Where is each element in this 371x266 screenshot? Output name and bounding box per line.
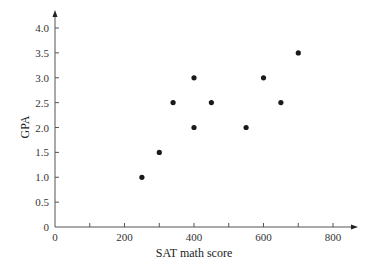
data-point xyxy=(171,100,176,105)
scatter-chart: 00.51.01.52.02.53.03.54.0 0200400600800 … xyxy=(0,0,371,266)
data-point xyxy=(191,75,196,80)
y-tick-label: 1.5 xyxy=(35,146,49,158)
data-points xyxy=(139,50,301,180)
x-tick-label: 600 xyxy=(255,231,272,243)
y-tick-label: 3.0 xyxy=(35,72,49,84)
data-point xyxy=(261,75,266,80)
x-axis-arrow-icon xyxy=(351,225,358,230)
y-tick-label: 2.0 xyxy=(35,122,49,134)
data-point xyxy=(157,150,162,155)
y-axis-arrow-icon xyxy=(53,10,58,17)
data-point xyxy=(209,100,214,105)
y-tick-label: 0 xyxy=(44,221,50,233)
y-tick-label: 1.0 xyxy=(35,171,49,183)
data-point xyxy=(244,125,249,130)
x-tick-label: 200 xyxy=(116,231,133,243)
y-axis-title: GPA xyxy=(18,115,32,138)
x-axis: 0200400600800 xyxy=(52,223,358,243)
x-tick-label: 800 xyxy=(325,231,342,243)
x-tick-label: 400 xyxy=(186,231,203,243)
y-tick-label: 2.5 xyxy=(35,97,49,109)
data-point xyxy=(191,125,196,130)
data-point xyxy=(278,100,283,105)
x-tick-label: 0 xyxy=(52,231,58,243)
x-axis-title: SAT math score xyxy=(156,246,232,260)
y-tick-label: 0.5 xyxy=(35,196,49,208)
y-axis: 00.51.01.52.02.53.03.54.0 xyxy=(35,10,59,233)
y-tick-label: 4.0 xyxy=(35,22,49,34)
data-point xyxy=(139,175,144,180)
y-tick-label: 3.5 xyxy=(35,47,49,59)
data-point xyxy=(296,50,301,55)
